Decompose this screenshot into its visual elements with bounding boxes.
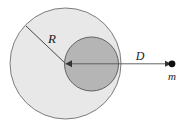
distance-label: D (135, 49, 145, 63)
radius-label: R (47, 31, 56, 46)
physics-diagram-figure: Gravitational attraction of a point mass… (0, 0, 184, 125)
point-mass-label: m (168, 70, 176, 82)
diagram-canvas: Gravitational attraction of a point mass… (0, 0, 184, 125)
point-mass-dot (169, 60, 176, 67)
